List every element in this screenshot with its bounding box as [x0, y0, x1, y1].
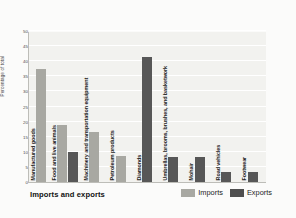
plot-area: Manufactured goodsFood and live animalsM…	[28, 32, 266, 183]
category-label: Machinery and transportation equipment	[83, 77, 88, 180]
y-axis-tick-10: 10	[4, 151, 28, 155]
category-label: Petroleum products	[110, 130, 115, 180]
bar-imports	[36, 69, 46, 182]
bar-imports	[89, 132, 99, 182]
y-axis-tick-5: 5	[4, 166, 28, 170]
bar-exports	[168, 157, 178, 182]
legend: Imports Exports	[181, 189, 272, 197]
bar-exports	[248, 172, 258, 182]
bar-imports	[57, 125, 67, 182]
legend-item-imports[interactable]: Imports	[181, 189, 223, 197]
chart-figure: Percentage of total 05101520253035404550…	[0, 0, 296, 218]
bar-exports	[68, 152, 78, 182]
category-label: Food and live animals	[51, 125, 56, 180]
category-label: Mohair	[189, 163, 194, 180]
y-axis-tick-20: 20	[4, 121, 28, 125]
y-axis-tick-30: 30	[4, 90, 28, 94]
y-axis-tick-50: 50	[4, 30, 28, 34]
y-axis-tick-25: 25	[4, 106, 28, 110]
bar-exports	[221, 172, 231, 182]
bar-exports	[142, 57, 152, 182]
gridline	[29, 45, 266, 46]
y-axis-tick-45: 45	[4, 45, 28, 49]
y-axis-tick-15: 15	[4, 136, 28, 140]
category-label: Road vehicles	[215, 144, 220, 180]
category-label: Diamonds	[136, 154, 141, 180]
legend-item-exports[interactable]: Exports	[230, 189, 272, 197]
bar-exports	[195, 157, 205, 182]
chart-title: Imports and exports	[30, 190, 105, 199]
legend-swatch-exports	[230, 189, 244, 197]
category-label: Manufactured goods	[30, 128, 35, 180]
legend-label-exports: Exports	[247, 189, 272, 196]
y-axis-tick-40: 40	[4, 60, 28, 64]
category-label: Umbrellas, brooms, brushes, and basketwo…	[163, 66, 168, 180]
legend-swatch-imports	[181, 189, 195, 197]
y-axis-tick-35: 35	[4, 75, 28, 79]
category-label: Footwear	[242, 156, 247, 180]
y-axis-tick-0: 0	[4, 181, 28, 185]
gridline	[29, 30, 266, 31]
legend-label-imports: Imports	[198, 189, 223, 196]
bar-imports	[116, 156, 126, 182]
